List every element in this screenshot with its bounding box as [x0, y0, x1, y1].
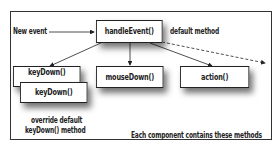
action-text: action()	[201, 73, 228, 82]
override-label-line1: override default	[31, 116, 82, 125]
handle-event-text: handleEvent()	[105, 27, 154, 36]
caption-label: Each component contains these methods	[131, 131, 262, 140]
mouse-down-text: mouseDown()	[106, 73, 154, 82]
key-down-override-box: keyDown()	[20, 82, 88, 103]
key-down-override-text: keyDown()	[35, 88, 72, 97]
override-label-line2: keyDown() method	[25, 126, 86, 135]
new-event-label: New event	[13, 27, 47, 36]
default-method-label: default method	[170, 27, 219, 36]
mouse-down-box: mouseDown()	[96, 66, 164, 88]
key-down-default-text: keyDown()	[28, 68, 65, 77]
handle-event-box: handleEvent()	[96, 20, 163, 43]
action-box: action()	[180, 66, 249, 88]
